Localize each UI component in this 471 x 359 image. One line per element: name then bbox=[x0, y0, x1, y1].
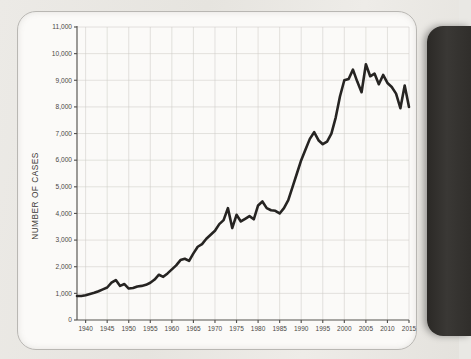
y-axis-title: NUMBER OF CASES bbox=[30, 152, 40, 240]
y-tick-label: 10,000 bbox=[52, 50, 73, 57]
x-tick-label: 1950 bbox=[122, 325, 137, 332]
y-tick-label: 0 bbox=[68, 316, 72, 323]
y-tick-label: 11,000 bbox=[52, 23, 72, 30]
x-tick-label: 2010 bbox=[380, 325, 395, 332]
x-tick-label: 1980 bbox=[251, 325, 266, 332]
x-axis-tick-labels: 1940194519501955196019651970197519801985… bbox=[78, 325, 416, 332]
x-tick-label: 1970 bbox=[208, 325, 223, 332]
x-tick-label: 1975 bbox=[229, 325, 244, 332]
x-tick-label: 1995 bbox=[316, 325, 331, 332]
axis-lines bbox=[74, 26, 409, 323]
x-tick-label: 1965 bbox=[186, 325, 201, 332]
y-tick-label: 1,000 bbox=[55, 290, 72, 297]
x-tick-label: 1960 bbox=[165, 325, 180, 332]
x-tick-label: 1990 bbox=[294, 325, 309, 332]
gridlines bbox=[77, 27, 409, 320]
x-tick-label: 1940 bbox=[78, 325, 93, 332]
y-tick-label: 7,000 bbox=[55, 130, 72, 137]
y-tick-label: 2,000 bbox=[55, 263, 72, 270]
data-series-line bbox=[77, 64, 409, 296]
y-axis-tick-labels: 01,0002,0003,0004,0005,0006,0007,0008,00… bbox=[52, 23, 73, 323]
y-tick-label: 5,000 bbox=[55, 183, 72, 190]
y-tick-label: 3,000 bbox=[55, 236, 72, 243]
x-tick-label: 2005 bbox=[359, 325, 374, 332]
x-tick-label: 1945 bbox=[100, 325, 115, 332]
y-tick-label: 8,000 bbox=[55, 103, 72, 110]
x-tick-label: 1985 bbox=[272, 325, 287, 332]
x-tick-label: 2015 bbox=[402, 325, 417, 332]
y-tick-label: 4,000 bbox=[55, 210, 72, 217]
x-tick-label: 2000 bbox=[337, 325, 352, 332]
y-tick-label: 6,000 bbox=[55, 156, 72, 163]
y-tick-label: 9,000 bbox=[55, 77, 72, 84]
x-tick-label: 1955 bbox=[143, 325, 158, 332]
